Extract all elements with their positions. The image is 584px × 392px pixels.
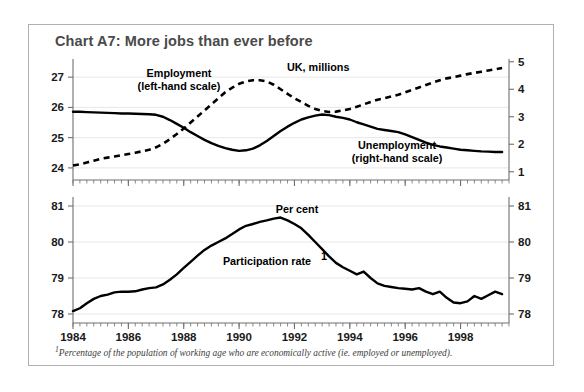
y-tick-label-right: 5 bbox=[518, 56, 525, 68]
chart-canvas: 2425262712345787980817879808119841986198… bbox=[29, 25, 555, 367]
x-tick-label: 1998 bbox=[448, 331, 474, 343]
footnote: 1Percentage of the population of working… bbox=[55, 345, 452, 358]
footnote-text: Percentage of the population of working … bbox=[59, 348, 452, 358]
y-tick-label-left: 79 bbox=[51, 272, 64, 284]
annotation-unemployment: Unemployment bbox=[358, 139, 436, 151]
x-tick-label: 1990 bbox=[226, 331, 252, 343]
y-tick-label-left: 80 bbox=[51, 236, 64, 248]
annotation-participation: Participation rate bbox=[223, 255, 311, 267]
y-tick-label-right: 81 bbox=[518, 200, 531, 212]
chart-panel-1: 2425262712345 bbox=[51, 56, 525, 186]
y-tick-label-left: 26 bbox=[51, 101, 64, 113]
chart-figure: Chart A7: More jobs than ever before 242… bbox=[28, 24, 554, 366]
annotation-unemployment-scale: (right-hand scale) bbox=[352, 152, 443, 164]
y-tick-label-left: 24 bbox=[51, 162, 64, 174]
annotation-participation-marker: 1 bbox=[321, 250, 327, 262]
x-tick-label: 1992 bbox=[282, 331, 308, 343]
annotation-employment-scale: (left-hand scale) bbox=[138, 80, 221, 92]
x-tick-label: 1996 bbox=[392, 331, 418, 343]
y-tick-label-right: 4 bbox=[518, 83, 525, 95]
annotation-units-percent: Per cent bbox=[276, 203, 319, 215]
y-tick-label-right: 2 bbox=[518, 138, 524, 150]
y-tick-label-left: 78 bbox=[51, 308, 64, 320]
x-tick-label: 1994 bbox=[337, 331, 363, 343]
x-tick-label: 1988 bbox=[171, 331, 197, 343]
y-tick-label-right: 3 bbox=[518, 111, 524, 123]
series-line-unemployment bbox=[73, 112, 502, 152]
y-tick-label-right: 80 bbox=[518, 236, 531, 248]
y-tick-label-right: 1 bbox=[518, 166, 525, 178]
y-tick-label-left: 25 bbox=[51, 132, 64, 144]
annotation-units-millions: UK, millions bbox=[287, 61, 349, 73]
chart-panel-2: 7879808178798081198419861988199019921994… bbox=[51, 197, 531, 343]
y-tick-label-right: 79 bbox=[518, 272, 531, 284]
y-tick-label-left: 27 bbox=[51, 71, 64, 83]
y-tick-label-left: 81 bbox=[51, 200, 64, 212]
annotation-employment: Employment bbox=[147, 67, 212, 79]
x-tick-label: 1984 bbox=[60, 331, 86, 343]
x-tick-label: 1986 bbox=[116, 331, 142, 343]
y-tick-label-right: 78 bbox=[518, 308, 531, 320]
